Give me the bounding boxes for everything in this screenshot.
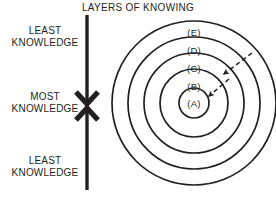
page-title: LAYERS OF KNOWING	[0, 2, 276, 14]
ring-label-d: (D)	[174, 45, 214, 57]
axis-label-least-top-line2: KNOWLEDGE	[2, 37, 88, 49]
axis-label-least-top-line1: LEAST	[29, 25, 62, 36]
axis-label-least-bottom-line1: LEAST	[29, 155, 62, 166]
axis-label-most-middle-line1: MOST	[30, 91, 60, 102]
axis-label-least-top: LEAST KNOWLEDGE	[2, 25, 88, 49]
layers-of-knowing-figure: LAYERS OF KNOWING LEAST KNOWLEDGE MOST K…	[0, 0, 276, 198]
axis-label-least-bottom-line2: KNOWLEDGE	[2, 167, 88, 179]
ring-label-a: (A)	[174, 98, 214, 110]
ring-label-b: (B)	[174, 81, 214, 93]
inward-annotation-arrows	[209, 53, 252, 96]
axis-label-most-middle-line2: KNOWLEDGE	[2, 103, 88, 115]
ring-label-c: (C)	[174, 63, 214, 75]
axis-label-least-bottom: LEAST KNOWLEDGE	[2, 155, 88, 179]
ring-label-e: (E)	[174, 27, 214, 39]
axis-label-most-middle: MOST KNOWLEDGE	[2, 91, 88, 115]
